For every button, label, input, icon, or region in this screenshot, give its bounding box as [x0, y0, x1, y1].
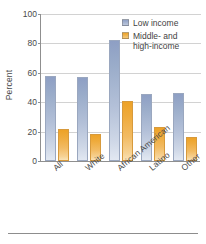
- legend-label-low-income: Low income: [133, 18, 178, 28]
- legend-item-low-income: Low income: [122, 18, 179, 28]
- legend-swatch-middle-high-income: [122, 32, 129, 39]
- bar-group: [73, 14, 105, 161]
- bar-low-income: [45, 76, 57, 161]
- legend-label-middle-high-income: Middle- andhigh-income: [133, 31, 179, 51]
- bar-middle-high-income: [58, 129, 70, 161]
- y-tick-label: 100: [7, 10, 37, 19]
- bar-low-income: [109, 40, 121, 161]
- y-tick-label: 0: [7, 157, 37, 166]
- y-tick-label: 60: [7, 69, 37, 78]
- y-tick-label: 20: [7, 128, 37, 137]
- bottom-rule: [8, 233, 198, 234]
- bar-low-income: [77, 77, 89, 161]
- y-tick-mark: [38, 161, 41, 162]
- legend-label-line1: Middle- and: [133, 31, 177, 41]
- bar-chart-figure: Percent 020406080100 AllWhiteAfrican Ame…: [0, 0, 206, 244]
- y-tick-label: 80: [7, 39, 37, 48]
- bar-low-income: [173, 93, 185, 161]
- legend-item-middle-high-income: Middle- andhigh-income: [122, 31, 179, 51]
- chart-legend: Low income Middle- andhigh-income: [122, 18, 179, 54]
- legend-label-line2: high-income: [133, 41, 179, 51]
- legend-swatch-low-income: [122, 19, 129, 26]
- y-tick-label: 40: [7, 98, 37, 107]
- bar-group: [41, 14, 73, 161]
